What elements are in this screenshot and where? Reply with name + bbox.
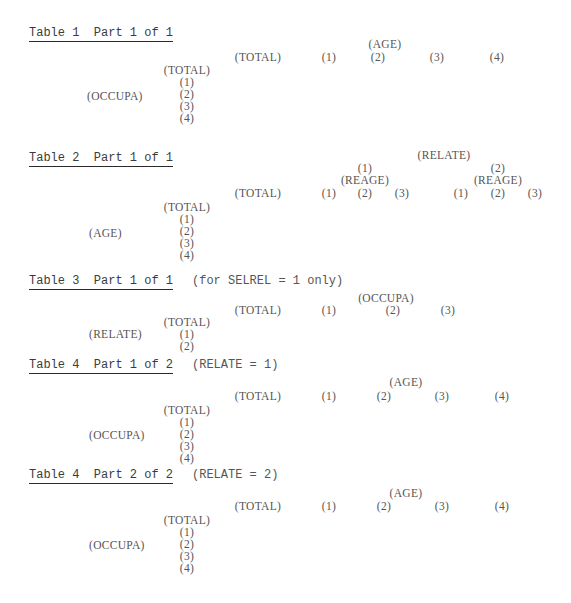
column-subvariable-label: (REAGE) (335, 174, 395, 186)
row-variable-label: (RELATE) (89, 328, 142, 340)
column-header: (3) (412, 390, 472, 402)
column-subvariable-label: (REAGE) (468, 174, 528, 186)
column-header: (1) (299, 500, 359, 512)
table-condition: (RELATE = 1) (192, 359, 278, 371)
column-header: (TOTAL) (228, 500, 288, 512)
column-header: (3) (418, 304, 478, 316)
column-variable-label: (AGE) (376, 376, 436, 388)
column-header: (4) (472, 500, 532, 512)
row-header: (4) (157, 112, 217, 124)
row-header: (3) (157, 237, 217, 249)
column-header: (TOTAL) (228, 51, 288, 63)
column-header: (3) (412, 500, 472, 512)
row-header: (1) (157, 328, 217, 340)
row-header: (3) (157, 550, 217, 562)
row-header: (TOTAL) (157, 201, 217, 213)
row-header: (1) (157, 213, 217, 225)
column-header: (2) (354, 390, 414, 402)
table-condition: (RELATE = 2) (192, 469, 278, 481)
column-header: (TOTAL) (228, 390, 288, 402)
row-header: (1) (157, 416, 217, 428)
row-header: (3) (157, 440, 217, 452)
column-group-label: (1) (335, 162, 395, 174)
column-header: (3) (505, 187, 565, 199)
row-variable-label: (OCCUPA) (89, 429, 145, 441)
table-title: Table 4 Part 2 of 2 (29, 469, 173, 481)
row-header: (1) (157, 526, 217, 538)
column-header: (3) (372, 187, 432, 199)
column-variable-label: (AGE) (376, 487, 436, 499)
column-header: (4) (467, 51, 527, 63)
row-header: (3) (157, 100, 217, 112)
column-group-label: (2) (468, 162, 528, 174)
row-header: (2) (157, 538, 217, 550)
row-header: (4) (157, 452, 217, 464)
row-header: (TOTAL) (157, 316, 217, 328)
column-variable-label: (OCCUPA) (356, 292, 416, 304)
row-header: (TOTAL) (157, 64, 217, 76)
row-header: (2) (157, 428, 217, 440)
row-header: (TOTAL) (157, 514, 217, 526)
row-header: (TOTAL) (157, 404, 217, 416)
row-header: (2) (157, 88, 217, 100)
column-header: (4) (472, 390, 532, 402)
table-title: Table 2 Part 1 of 1 (29, 152, 173, 164)
table-title: Table 1 Part 1 of 1 (29, 27, 173, 39)
column-header: (1) (299, 390, 359, 402)
row-variable-label: (AGE) (89, 227, 122, 239)
row-header: (4) (157, 249, 217, 261)
table-title: Table 3 Part 1 of 1 (29, 275, 173, 287)
row-variable-label: (OCCUPA) (87, 90, 143, 102)
column-header: (TOTAL) (228, 304, 288, 316)
column-header: (2) (348, 51, 408, 63)
column-variable-label: (RELATE) (414, 149, 474, 161)
column-header: (2) (363, 304, 423, 316)
column-header: (2) (354, 500, 414, 512)
table-title: Table 4 Part 1 of 2 (29, 359, 173, 371)
column-variable-label: (AGE) (355, 38, 415, 50)
column-header: (TOTAL) (228, 187, 288, 199)
row-header: (2) (157, 340, 217, 352)
row-header: (2) (157, 225, 217, 237)
row-header: (4) (157, 562, 217, 574)
row-header: (1) (157, 76, 217, 88)
column-header: (1) (299, 304, 359, 316)
table-condition: (for SELREL = 1 only) (192, 275, 343, 287)
column-header: (3) (407, 51, 467, 63)
row-variable-label: (OCCUPA) (89, 539, 145, 551)
